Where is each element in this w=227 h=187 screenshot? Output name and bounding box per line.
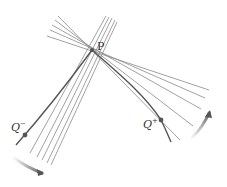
secant-line <box>30 16 106 153</box>
point-q-minus <box>23 133 28 138</box>
point-p <box>90 48 94 52</box>
arrowhead-q-plus-icon <box>205 110 212 118</box>
secant-line <box>50 30 205 98</box>
secant-lines-left-group <box>30 16 117 165</box>
label-q-minus: Q− <box>11 120 26 134</box>
label-q-plus: Q+ <box>143 117 158 131</box>
diagram-canvas: P Q− Q+ <box>0 0 227 187</box>
secant-line <box>52 25 201 109</box>
label-p: P <box>97 40 105 53</box>
secant-tangent-diagram: P Q− Q+ <box>0 0 227 187</box>
point-q-plus <box>159 118 164 123</box>
secant-line <box>37 17 109 157</box>
